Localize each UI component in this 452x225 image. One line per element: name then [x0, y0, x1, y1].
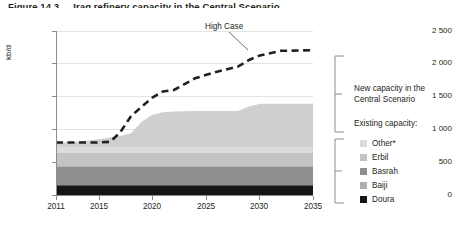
x-tick-label-2030: 2030: [239, 202, 279, 211]
x-tick-label-2011: 2011: [36, 202, 76, 211]
x-axis-line: [56, 195, 313, 196]
legend-item-erbil[interactable]: Erbil: [360, 148, 388, 159]
x-tick-2015: [99, 196, 100, 200]
legend-item-basrah[interactable]: Basrah: [360, 162, 398, 173]
legend-new-capacity-line1: New capacity in the: [354, 84, 425, 95]
high-case-leader-line: [228, 31, 256, 53]
y-axis-group: kb/d: [0, 0, 50, 225]
legend-item-baiji[interactable]: Baiji: [360, 176, 387, 187]
area-doura-band: [56, 186, 313, 195]
legend-swatch-other: [360, 140, 367, 147]
legend-label-basrah: Basrah: [372, 167, 398, 176]
legend-label-other: Other*: [372, 139, 396, 148]
x-tick-2030: [259, 196, 260, 200]
legend-item-doura[interactable]: Doura: [360, 190, 394, 201]
y-tick-2500: [52, 31, 56, 32]
x-tick-2025: [206, 196, 207, 200]
high-case-annotation-label: High Case: [205, 22, 243, 31]
figure-container: Figure 14.3Iraq refinery capacity in the…: [0, 0, 452, 225]
legend-label-doura: Doura: [372, 195, 394, 204]
stacked-area-plot: [56, 31, 313, 196]
legend-label-erbil: Erbil: [372, 153, 388, 162]
y-tick-2000: [52, 63, 56, 64]
y-tick-label-2500: 2 500: [406, 27, 452, 35]
x-tick-label-2035: 2035: [293, 202, 333, 211]
legend-existing-capacity-header: Existing capacity:: [354, 119, 417, 128]
x-tick-2011: [56, 196, 57, 200]
x-tick-label-2015: 2015: [79, 202, 119, 211]
bracket-new-capacity: [332, 55, 348, 133]
y-axis-unit-label: kb/d: [4, 33, 13, 73]
y-tick-500: [52, 162, 56, 163]
x-tick-label-2025: 2025: [186, 202, 226, 211]
x-tick-2020: [152, 196, 153, 200]
legend-swatch-basrah: [360, 168, 367, 175]
x-tick-2035: [313, 196, 314, 200]
x-tick-label-2020: 2020: [132, 202, 172, 211]
legend: New capacity in the Central Scenario Exi…: [332, 55, 452, 205]
legend-label-baiji: Baiji: [372, 181, 387, 190]
legend-item-other[interactable]: Other*: [360, 134, 396, 145]
bracket-existing-capacity: [332, 138, 348, 204]
figure-title-row: Figure 14.3Iraq refinery capacity in the…: [8, 0, 428, 8]
page-title: Iraq refinery capacity in the Central Sc…: [73, 1, 279, 8]
legend-swatch-doura: [360, 196, 367, 203]
legend-new-capacity-line2: Central Scenario: [354, 95, 415, 106]
y-tick-1500: [52, 96, 56, 97]
y-axis-line: [56, 31, 57, 195]
legend-swatch-erbil: [360, 154, 367, 161]
legend-swatch-baiji: [360, 182, 367, 189]
y-tick-1000: [52, 129, 56, 130]
